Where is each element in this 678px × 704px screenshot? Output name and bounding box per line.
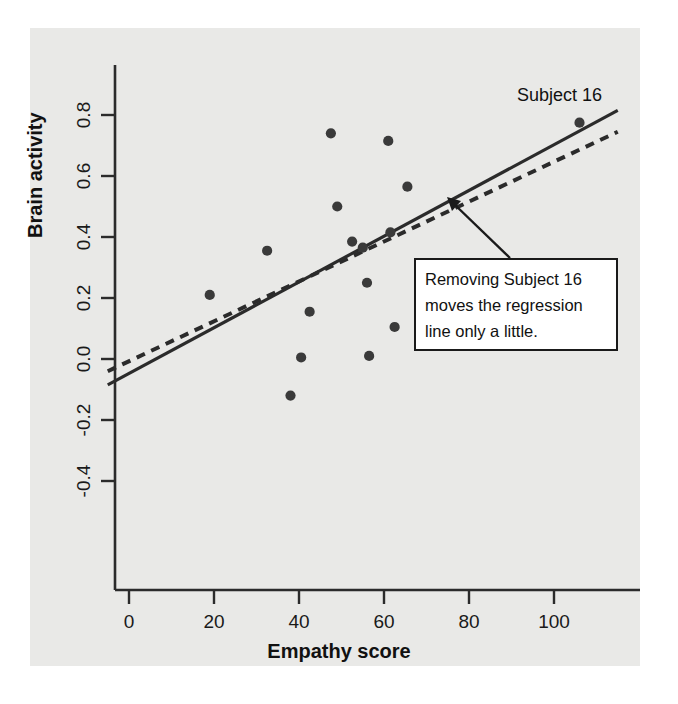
y-tick-label: -0.4 xyxy=(73,464,94,497)
data-point xyxy=(205,290,215,300)
data-point xyxy=(305,307,315,317)
x-tick-label: 20 xyxy=(203,611,224,632)
data-point xyxy=(574,118,584,128)
y-tick-label: 0.4 xyxy=(73,223,94,250)
data-point xyxy=(262,246,272,256)
x-axis-ticks xyxy=(129,590,554,604)
x-tick-label: 0 xyxy=(124,611,135,632)
annotation-line-1: Removing Subject 16 xyxy=(425,266,608,292)
data-point xyxy=(362,278,372,288)
data-point xyxy=(402,182,412,192)
data-point xyxy=(296,352,306,362)
data-point xyxy=(332,201,342,211)
data-point xyxy=(390,322,400,332)
y-tick-labels: 0.8 0.6 0.4 0.2 0.0 -0.2 -0.4 xyxy=(73,102,94,498)
data-point xyxy=(358,243,368,253)
data-point xyxy=(285,391,295,401)
y-tick-label: 0.0 xyxy=(73,346,94,372)
y-tick-label: 0.6 xyxy=(73,163,94,189)
annotation-arrow xyxy=(447,197,510,258)
y-tick-label: -0.2 xyxy=(73,404,94,437)
data-point xyxy=(385,227,395,237)
x-tick-label: 100 xyxy=(538,611,570,632)
y-tick-label: 0.2 xyxy=(73,285,94,311)
annotation-line-3: line only a little. xyxy=(425,318,608,344)
x-axis-title: Empathy score xyxy=(0,640,678,663)
y-tick-label: 0.8 xyxy=(73,102,94,128)
data-point xyxy=(383,136,393,146)
annotation-line-2: moves the regression xyxy=(425,292,608,318)
subject-16-label: Subject 16 xyxy=(517,85,602,106)
data-point xyxy=(347,236,357,246)
y-axis-ticks xyxy=(101,115,115,481)
y-axis-title: Brain activity xyxy=(24,112,47,238)
x-tick-labels: 0 20 40 60 80 100 xyxy=(124,611,570,632)
annotation-callout-box: Removing Subject 16 moves the regression… xyxy=(414,258,618,351)
x-tick-label: 40 xyxy=(288,611,309,632)
figure-scatter-plot: 0 20 40 60 80 100 0.8 0.6 0.4 0.2 0.0 -0… xyxy=(0,0,678,704)
data-point xyxy=(364,351,374,361)
x-tick-label: 60 xyxy=(373,611,394,632)
data-point xyxy=(326,128,336,138)
x-tick-label: 80 xyxy=(458,611,479,632)
